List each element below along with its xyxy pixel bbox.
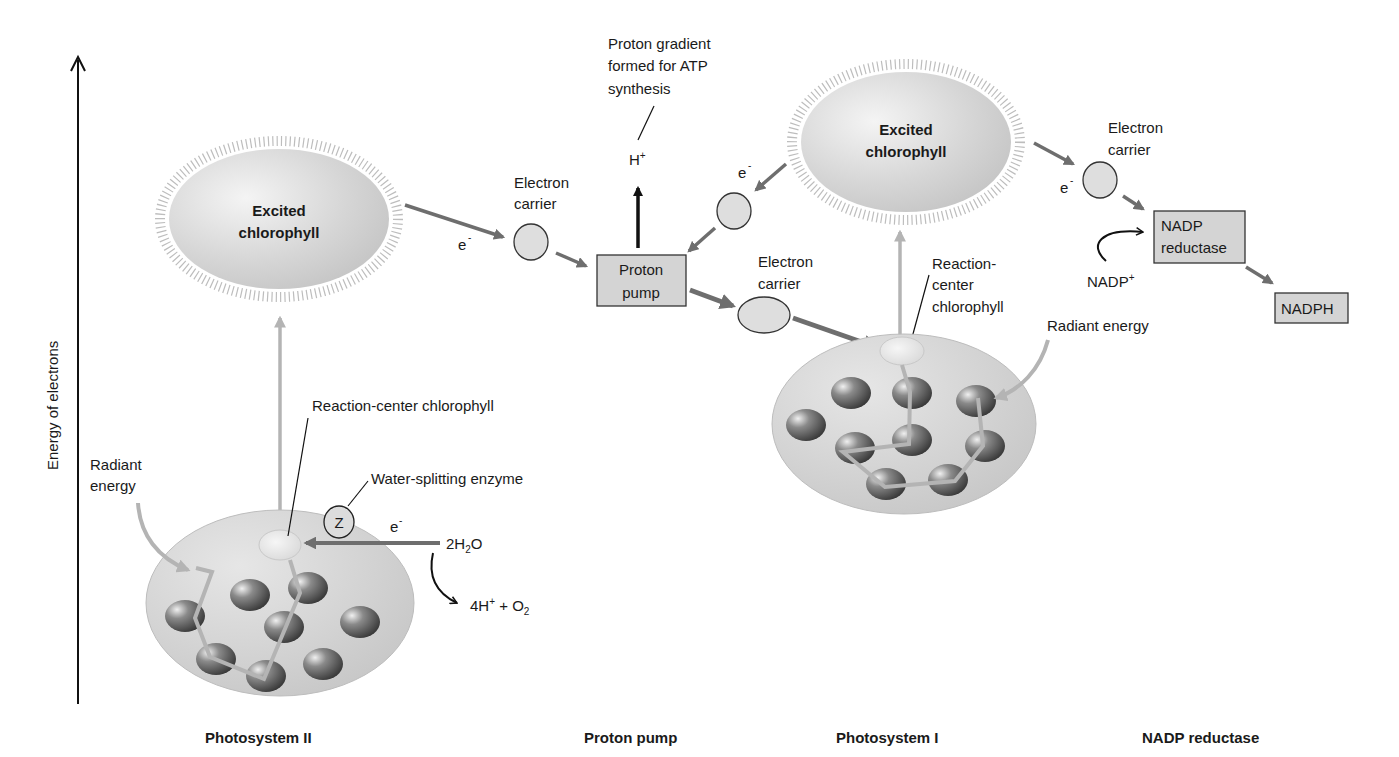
section-label-proton-pump: Proton pump: [584, 729, 677, 746]
svg-text:2H2O: 2H2O: [446, 535, 482, 555]
svg-text:chlorophyll: chlorophyll: [866, 143, 947, 160]
svg-text:Reaction-center chlorophyll: Reaction-center chlorophyll: [312, 397, 494, 414]
svg-text:e: e: [390, 518, 398, 535]
energy-axis: Energy of electrons: [44, 57, 85, 704]
water-molecule-label: 2H2O: [446, 535, 482, 555]
svg-text:Electron: Electron: [758, 253, 813, 270]
nadp-reductase-box: NADP reductase: [1154, 211, 1245, 263]
svg-text:synthesis: synthesis: [608, 80, 671, 97]
photosystem-i-complex: [772, 334, 1036, 514]
svg-text:formed for ATP: formed for ATP: [608, 57, 708, 74]
svg-text:carrier: carrier: [514, 195, 557, 212]
svg-text:chlorophyll: chlorophyll: [932, 298, 1004, 315]
svg-text:e: e: [738, 164, 746, 181]
nadp-input-arrow: [1098, 231, 1143, 261]
water-splitting-enzyme: Z: [324, 506, 354, 538]
svg-text:Radiant: Radiant: [90, 456, 143, 473]
proton-label: H+: [629, 150, 646, 168]
svg-text:Electron: Electron: [1108, 119, 1163, 136]
svg-text:-: -: [399, 515, 402, 526]
svg-text:-: -: [468, 232, 471, 243]
svg-text:chlorophyll: chlorophyll: [239, 224, 320, 241]
svg-text:Reaction-: Reaction-: [932, 255, 996, 272]
psi-excited-chlorophyll: Excited chlorophyll: [792, 64, 1020, 220]
water-products-label: 4H+ + O2: [470, 596, 530, 617]
electron-carrier-4: Electron carrier: [1083, 119, 1163, 198]
electron-carrier-1: Electron carrier: [514, 174, 569, 260]
svg-text:NADP+: NADP+: [1087, 272, 1135, 290]
svg-text:Electron: Electron: [514, 174, 569, 191]
svg-text:Z: Z: [334, 514, 343, 531]
psii-excited-chlorophyll: Excited chlorophyll: [160, 141, 398, 297]
svg-text:Excited: Excited: [252, 202, 305, 219]
section-label-photosystem-ii: Photosystem II: [205, 729, 312, 746]
svg-text:-: -: [1070, 175, 1073, 186]
svg-text:-: -: [748, 160, 751, 171]
svg-text:energy: energy: [90, 477, 136, 494]
svg-text:carrier: carrier: [758, 275, 801, 292]
proton-pump-box: Proton pump: [597, 255, 686, 306]
carrier3-to-pump-arrow: [689, 228, 715, 251]
svg-text:Excited: Excited: [879, 121, 932, 138]
psi-to-carrier4-arrow: [1034, 143, 1073, 164]
psi-to-carrier3-arrow: [756, 164, 786, 190]
svg-text:Water-splitting enzyme: Water-splitting enzyme: [371, 470, 523, 487]
psii-to-carrier-arrow: [405, 205, 503, 237]
carrier4-to-nadp-arrow: [1123, 196, 1143, 209]
svg-text:e: e: [1060, 179, 1068, 196]
svg-text:carrier: carrier: [1108, 141, 1151, 158]
carrier1-to-pump-arrow: [556, 253, 586, 266]
nadp-to-nadph-arrow: [1246, 267, 1272, 283]
psi-reaction-center: [880, 337, 924, 365]
axis-label: Energy of electrons: [44, 341, 61, 470]
section-label-nadp-reductase: NADP reductase: [1142, 729, 1259, 746]
svg-text:NADP: NADP: [1161, 217, 1203, 234]
svg-text:Radiant energy: Radiant energy: [1047, 317, 1149, 334]
section-label-photosystem-i: Photosystem I: [836, 729, 939, 746]
pump-to-carrier2-arrow: [690, 290, 733, 306]
electron-carrier-3: [717, 193, 751, 229]
svg-text:4H+ + O2: 4H+ + O2: [470, 596, 530, 617]
nadph-box: NADPH: [1275, 293, 1348, 323]
svg-text:NADPH: NADPH: [1281, 300, 1334, 317]
svg-text:Proton gradient: Proton gradient: [608, 35, 711, 52]
svg-text:reductase: reductase: [1161, 239, 1227, 256]
svg-text:e: e: [458, 236, 466, 253]
svg-text:pump: pump: [622, 284, 660, 301]
photosystem-ii-complex: [146, 510, 414, 696]
svg-text:H+: H+: [629, 150, 646, 168]
water-split-arrow: [431, 553, 457, 603]
psii-reaction-center: [259, 530, 301, 560]
photosynthesis-diagram: Energy of electrons Excited chlorophyll …: [0, 0, 1399, 757]
nadp-plus-label: NADP+: [1087, 272, 1135, 290]
svg-text:Proton: Proton: [619, 261, 663, 278]
svg-text:center: center: [932, 276, 974, 293]
